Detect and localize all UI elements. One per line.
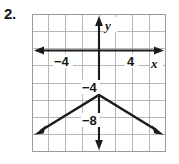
coordinate-graph: −4 4 −4 −8 x y — [32, 14, 166, 152]
x-tick-label-neg-4: −4 — [54, 54, 70, 69]
coordinate-graph-svg: −4 4 −4 −8 x y — [32, 14, 166, 152]
y-axis-label: y — [103, 18, 111, 33]
y-tick-label-neg-4: −4 — [82, 80, 98, 95]
x-axis-label: x — [150, 56, 158, 71]
math-problem-figure: 2. — [0, 0, 179, 164]
y-tick-label-neg-8: −8 — [82, 113, 97, 128]
x-tick-label-pos-4: 4 — [127, 54, 135, 69]
problem-number-label: 2. — [4, 6, 16, 21]
